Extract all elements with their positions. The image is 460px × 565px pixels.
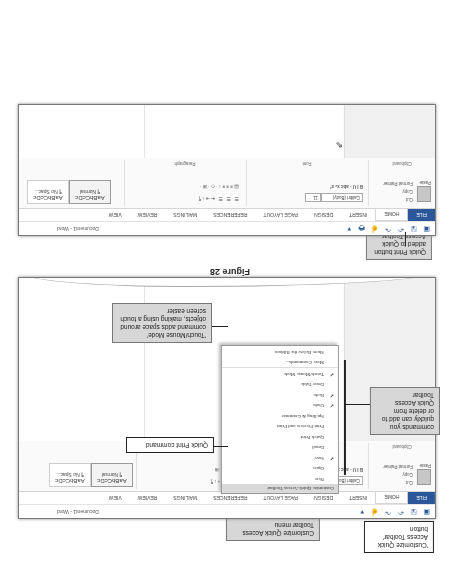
list-buttons[interactable]: ☰ · ☰ · ☰ · ⇤ ⇥ ↕ ¶ (199, 196, 239, 201)
redo-icon[interactable]: ↷ (384, 222, 392, 233)
menu-item-show-below[interactable]: Show Below the Ribbon (222, 347, 338, 358)
menu-item-label: More Commands... (285, 361, 324, 366)
save-icon[interactable]: 🖫 (410, 222, 418, 233)
menu-item-spelling[interactable]: Spelling & Grammar (222, 411, 338, 422)
check-icon: ✔ (330, 390, 334, 401)
clipboard-label: Clipboard (369, 161, 435, 166)
quick-print-icon[interactable]: 🖶 (358, 222, 366, 233)
paste-button[interactable]: Paste (419, 180, 431, 185)
tab-file[interactable]: FILE (408, 492, 435, 504)
touch-mode-icon[interactable]: ☝ (371, 505, 379, 516)
mouse-pointer-icon: ⇖ (335, 140, 343, 150)
font-group: Calibri (Body) 11 B I U · abc x₂ x² Font (246, 160, 367, 206)
bracket-line (344, 360, 346, 475)
ribbon-tabs: FILE HOME INSERT DESIGN PAGE LAYOUT REFE… (19, 208, 435, 221)
tab-home[interactable]: HOME (375, 492, 408, 504)
tab-review[interactable]: REVIEW (130, 209, 166, 221)
save-icon[interactable]: 🖫 (410, 505, 418, 516)
tab-view[interactable]: VIEW (101, 209, 130, 221)
menu-item-label: Open (313, 467, 324, 472)
tab-mailings[interactable]: MAILINGS (165, 209, 205, 221)
menu-header: Customize Quick Access Toolbar (222, 484, 338, 493)
copy-button[interactable]: Copy (402, 472, 413, 477)
undo-icon[interactable]: ↶ (397, 222, 405, 233)
menu-item-redo[interactable]: ✔Redo (222, 390, 338, 401)
redo-icon[interactable]: ↷ (384, 505, 392, 516)
menu-item-label: Quick Print (301, 435, 324, 440)
rotated-page: 'Customize Quick Access Toolbar' button … (0, 0, 460, 565)
clipboard-label: Clipboard (369, 444, 435, 449)
tab-home[interactable]: HOME (375, 209, 408, 221)
menu-item-label: New (315, 477, 324, 482)
quick-print-added-connector (405, 232, 406, 246)
paragraph-group: ☰ · ☰ · ☰ · ⇤ ⇥ ↕ ¶ ▤ ≡ ≡ ≡ ↕ · ◇ · ⊞ · … (124, 160, 245, 206)
menu-item-email[interactable]: Email (222, 442, 338, 453)
touch-mode-connector (212, 326, 228, 327)
tab-insert[interactable]: INSERT (341, 492, 375, 504)
menu-item-print-preview[interactable]: Print Preview and Print (222, 421, 338, 432)
style-no-spacing[interactable]: AaBbCcDc ¶ No Spac... (27, 180, 69, 204)
font-name-select[interactable]: Calibri (Body) (321, 193, 363, 202)
align-buttons[interactable]: ▤ ≡ ≡ ≡ ↕ · ◇ · ⊞ · (200, 184, 239, 189)
style-normal[interactable]: AaBbCcDc ¶ Normal (69, 180, 111, 204)
menu-item-label: Print Preview and Print (277, 425, 324, 430)
style-normal-preview: AaBbCcDc (70, 195, 110, 201)
menu-item-quick-print[interactable]: Quick Print (222, 432, 338, 443)
font-size-select[interactable]: 11 (305, 193, 321, 202)
callout-quick-print-command: Quick Print command (126, 437, 214, 453)
paste-icon[interactable] (417, 186, 431, 202)
touch-mode-icon[interactable]: ☝ (371, 222, 379, 233)
style-normal[interactable]: AaBbCcDc ¶ Normal (91, 463, 133, 487)
menu-item-touch-mode[interactable]: ✔Touch/Mouse Mode (222, 369, 338, 380)
cut-button[interactable]: Cut (406, 480, 413, 485)
menu-item-label: Save (314, 456, 324, 461)
menu-item-label: Spelling & Grammar (282, 414, 324, 419)
callout-customize-menu: Customize Quick Access Toolbar menu (226, 517, 320, 541)
paragraph-label: Paragraph (125, 161, 245, 166)
tab-design[interactable]: DESIGN (306, 209, 341, 221)
clipboard-group: Paste Cut Copy Format Painter Clipboard (368, 160, 435, 206)
customize-qat-icon[interactable]: ▾ (358, 505, 366, 516)
navigation-pane (344, 105, 435, 158)
tab-insert[interactable]: INSERT (341, 209, 375, 221)
check-icon: ✔ (330, 369, 334, 380)
figure-caption: Figure 28 (20, 267, 440, 277)
format-painter-button[interactable]: Format Painter (383, 464, 413, 469)
menu-item-label: Redo (313, 393, 324, 398)
tab-page-layout[interactable]: PAGE LAYOUT (255, 209, 306, 221)
callout-touch-mode: 'Touch/Mouse Mode' command adds space ar… (112, 303, 212, 343)
quick-access-toolbar: ▣ 🖫 ↶ ↷ ☝ 🖶 ▾ (345, 222, 431, 233)
tab-review[interactable]: REVIEW (130, 492, 166, 504)
tab-file[interactable]: FILE (408, 209, 435, 221)
bold-italic-underline[interactable]: B I U · abc x₂ x² (330, 184, 363, 189)
page-edge (144, 105, 145, 158)
word-window-2: ▣ 🖫 ↶ ↷ ☝ 🖶 ▾ Document1 - Word FILE HOME… (18, 104, 436, 236)
title-bar: ▣ 🖫 ↶ ↷ ☝ ▾ Document1 - Word (19, 504, 435, 518)
tab-view[interactable]: VIEW (101, 492, 130, 504)
undo-icon[interactable]: ↶ (397, 505, 405, 516)
menu-item-draw-table[interactable]: Draw Table (222, 379, 338, 390)
menu-item-save[interactable]: ✔Save (222, 453, 338, 464)
style-normal-preview: AaBbCcDc (92, 478, 132, 484)
paste-icon[interactable] (417, 469, 431, 485)
figure-28: Quick Print button added to Quick Access… (20, 90, 440, 260)
menu-item-new[interactable]: New (222, 474, 338, 485)
menu-item-undo[interactable]: ✔Undo (222, 400, 338, 411)
document-area[interactable]: ⇖ (19, 105, 435, 158)
customize-qat-menu: Customize Quick Access Toolbar New Open … (221, 346, 339, 495)
quick-print-connector (214, 446, 228, 447)
window-title: Document1 - Word (57, 509, 99, 515)
menu-item-open[interactable]: Open (222, 463, 338, 474)
ribbon: Paste Cut Copy Format Painter Clipboard … (19, 157, 435, 208)
copy-button[interactable]: Copy (402, 189, 413, 194)
customize-qat-icon[interactable]: ▾ (345, 222, 353, 233)
paste-button[interactable]: Paste (419, 463, 431, 468)
menu-item-more-commands[interactable]: More Commands... (222, 357, 338, 369)
tab-mailings[interactable]: MAILINGS (165, 492, 205, 504)
style-no-spacing-preview: AaBbCcDc (50, 478, 90, 484)
cut-button[interactable]: Cut (406, 197, 413, 202)
menu-item-label: Touch/Mouse Mode (284, 372, 324, 377)
tab-references[interactable]: REFERENCES (205, 209, 255, 221)
format-painter-button[interactable]: Format Painter (383, 181, 413, 186)
style-no-spacing[interactable]: AaBbCcDc ¶ No Spac... (49, 463, 91, 487)
